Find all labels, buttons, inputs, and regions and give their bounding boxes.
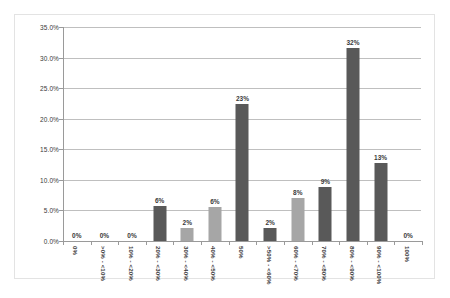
y-axis-labels: 0.0%5.0%10.0%15.0%20.0%25.0%30.0%35.0% (15, 27, 59, 241)
bar-series: 0%0%0%6%2%6%23%2%8%9%32%13%0% (63, 27, 422, 241)
x-axis-tick-mark (256, 241, 257, 245)
bar-value-label: 2% (265, 219, 274, 226)
x-axis-tick-mark (422, 241, 423, 245)
x-axis-labels: 0%>0% - <10%10% - <20%20% - <30%30% - <4… (63, 246, 422, 292)
bar-value-label: 2% (183, 219, 192, 226)
y-axis-tick-label: 0.0% (44, 238, 59, 245)
x-axis-tick-label: 20% - <30% (155, 246, 162, 281)
x-axis-tick-mark (339, 241, 340, 245)
y-axis-tick-label: 25.0% (40, 85, 59, 92)
bar[interactable] (236, 104, 249, 241)
bar-slot[interactable]: 6% (146, 27, 174, 241)
x-axis-tick-mark (63, 241, 64, 245)
y-axis-tick-mark (59, 58, 63, 59)
bar[interactable] (346, 48, 359, 241)
x-axis-tick-mark (173, 241, 174, 245)
x-axis-tick-mark (284, 241, 285, 245)
bar[interactable] (291, 198, 304, 241)
bar-slot[interactable]: 2% (173, 27, 201, 241)
bar-value-label: 8% (293, 189, 302, 196)
x-axis-tick-label: 0% (72, 246, 79, 255)
y-axis-tick-label: 5.0% (44, 207, 59, 214)
bar-value-label: 6% (155, 197, 164, 204)
bar-slot[interactable]: 0% (91, 27, 119, 241)
bar-slot[interactable]: 13% (367, 27, 395, 241)
y-axis-tick-mark (59, 119, 63, 120)
y-axis-tick-label: 20.0% (40, 115, 59, 122)
x-axis-tick-label: 60% - <70% (293, 246, 300, 281)
x-axis-tick-mark (91, 241, 92, 245)
bar-value-label: 0% (72, 232, 81, 239)
x-axis-tick-mark (394, 241, 395, 245)
x-axis-tick-mark (229, 241, 230, 245)
x-axis-tick-label: 70% - <80% (321, 246, 328, 281)
y-axis-tick-label: 10.0% (40, 176, 59, 183)
y-axis-tick-mark (59, 210, 63, 211)
bar-slot[interactable]: 2% (256, 27, 284, 241)
y-axis-tick-label: 35.0% (40, 24, 59, 31)
x-axis-tick-label: 80% - <90% (349, 246, 356, 281)
bar-slot[interactable]: 6% (201, 27, 229, 241)
bar[interactable] (264, 228, 277, 241)
bar[interactable] (319, 187, 332, 241)
x-axis-tick-label: 100% (404, 246, 411, 262)
bar-value-label: 23% (236, 95, 249, 102)
bar-slot[interactable]: 0% (394, 27, 422, 241)
bar-slot[interactable]: 32% (339, 27, 367, 241)
x-axis-tick-label: 30% - <40% (183, 246, 190, 281)
y-axis-tick-label: 15.0% (40, 146, 59, 153)
bar-slot[interactable]: 0% (118, 27, 146, 241)
x-axis-tick-mark (201, 241, 202, 245)
x-axis-tick-mark (367, 241, 368, 245)
bar-value-label: 0% (403, 232, 412, 239)
y-axis-tick-mark (59, 27, 63, 28)
y-axis-tick-mark (59, 180, 63, 181)
bar-slot[interactable]: 0% (63, 27, 91, 241)
bar-value-label: 6% (210, 198, 219, 205)
bar-value-label: 0% (100, 232, 109, 239)
y-axis-tick-mark (59, 149, 63, 150)
x-axis-tick-label: 40% - <50% (210, 246, 217, 281)
bar-value-label: 0% (127, 232, 136, 239)
bar[interactable] (153, 206, 166, 241)
bar[interactable] (181, 228, 194, 241)
bar-value-label: 13% (374, 154, 387, 161)
x-axis-tick-mark (312, 241, 313, 245)
x-axis-tick-mark (118, 241, 119, 245)
bar[interactable] (374, 163, 387, 241)
bar-slot[interactable]: 23% (229, 27, 257, 241)
bar-slot[interactable]: 9% (312, 27, 340, 241)
x-axis-tick-label: >50% - <60% (266, 246, 273, 285)
bar[interactable] (208, 207, 221, 241)
x-axis-tick-label: 10% - <20% (128, 246, 135, 281)
x-axis-tick-label: 90% - <100% (376, 246, 383, 284)
bar-value-label: 32% (346, 39, 359, 46)
y-axis-tick-mark (59, 88, 63, 89)
x-axis-tick-label: 50% (238, 246, 245, 259)
x-axis-line (63, 241, 422, 242)
bar-value-label: 9% (321, 178, 330, 185)
bar-slot[interactable]: 8% (284, 27, 312, 241)
chart-frame: 0.0%5.0%10.0%15.0%20.0%25.0%30.0%35.0% 0… (14, 14, 435, 279)
x-axis-tick-label: >0% - <10% (100, 246, 107, 281)
y-axis-tick-label: 30.0% (40, 54, 59, 61)
x-axis-tick-mark (146, 241, 147, 245)
